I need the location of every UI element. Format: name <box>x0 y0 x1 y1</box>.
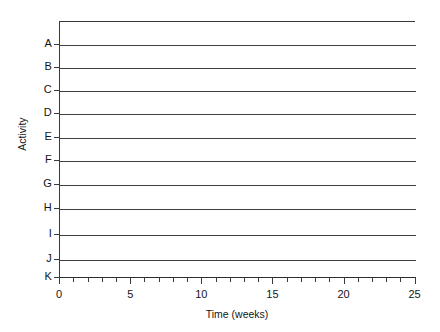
x-tick-minor-1 <box>73 277 74 282</box>
y-tick-h <box>54 208 59 209</box>
x-tick-minor-11 <box>216 277 217 282</box>
x-tick-major-5 <box>130 277 131 284</box>
y-axis-label-a: A <box>30 38 52 49</box>
x-tick-minor-14 <box>258 277 259 282</box>
x-tick-minor-23 <box>386 277 387 282</box>
y-axis-label-e: E <box>30 131 52 142</box>
x-axis-label-15: 15 <box>252 288 292 300</box>
y-tick-j <box>54 259 59 260</box>
y-axis-label-b: B <box>30 61 52 72</box>
x-tick-minor-19 <box>329 277 330 282</box>
gridline-row-j <box>60 260 416 261</box>
x-tick-minor-17 <box>301 277 302 282</box>
x-tick-minor-9 <box>187 277 188 282</box>
x-tick-minor-3 <box>102 277 103 282</box>
y-axis-label-d: D <box>30 107 52 118</box>
y-axis-label-h: H <box>30 202 52 213</box>
x-tick-minor-7 <box>159 277 160 282</box>
y-axis-label-k: K <box>30 271 52 282</box>
gridline-row-e <box>60 138 416 139</box>
x-tick-major-10 <box>201 277 202 284</box>
x-axis-label-10: 10 <box>181 288 221 300</box>
y-tick-a <box>54 44 59 45</box>
gridline-row-f <box>60 161 416 162</box>
x-axis-title: Time (weeks) <box>59 308 415 321</box>
gantt-chart: A B C D E F G H I J K Activity 0 5 10 15… <box>0 0 440 332</box>
x-axis-label-25: 25 <box>395 288 435 300</box>
y-tick-i <box>54 234 59 235</box>
gridline-row-c <box>60 91 416 92</box>
y-tick-c <box>54 90 59 91</box>
gridline-row-i <box>60 235 416 236</box>
x-tick-minor-4 <box>116 277 117 282</box>
x-tick-minor-12 <box>230 277 231 282</box>
x-axis-line <box>59 277 415 278</box>
x-axis-label-0: 0 <box>39 288 79 300</box>
y-axis-label-f: F <box>30 154 52 165</box>
x-axis-label-5: 5 <box>110 288 150 300</box>
y-tick-d <box>54 113 59 114</box>
x-tick-minor-18 <box>315 277 316 282</box>
x-tick-major-15 <box>272 277 273 284</box>
y-axis-title: Activity <box>15 94 29 174</box>
x-tick-minor-2 <box>88 277 89 282</box>
x-tick-minor-8 <box>173 277 174 282</box>
x-tick-major-0 <box>59 277 60 284</box>
x-tick-major-20 <box>344 277 345 284</box>
gridline-row-a <box>60 45 416 46</box>
y-tick-e <box>54 137 59 138</box>
gridline-row-b <box>60 68 416 69</box>
x-tick-minor-13 <box>244 277 245 282</box>
plot-area <box>59 21 415 277</box>
gridline-row-g <box>60 185 416 186</box>
x-tick-minor-24 <box>400 277 401 282</box>
gridline-row-h <box>60 209 416 210</box>
y-tick-f <box>54 160 59 161</box>
gridline-row-d <box>60 114 416 115</box>
x-tick-minor-22 <box>372 277 373 282</box>
x-tick-minor-16 <box>287 277 288 282</box>
y-tick-b <box>54 67 59 68</box>
x-axis-label-20: 20 <box>324 288 364 300</box>
y-tick-g <box>54 184 59 185</box>
y-axis-label-c: C <box>30 84 52 95</box>
x-tick-major-25 <box>415 277 416 284</box>
y-axis-label-j: J <box>30 253 52 264</box>
x-tick-minor-6 <box>144 277 145 282</box>
x-tick-minor-21 <box>358 277 359 282</box>
y-axis-label-g: G <box>30 178 52 189</box>
y-axis-label-i: I <box>30 228 52 239</box>
